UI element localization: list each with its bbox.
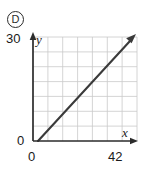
answer-choice-figure: D xyxy=(0,0,144,180)
y-axis-max-tick-label: 30 xyxy=(6,32,20,45)
line-arrowhead xyxy=(126,34,136,43)
y-axis-zero-tick-label: 0 xyxy=(17,134,24,147)
coordinate-plot: 30 0 0 42 y x xyxy=(0,0,144,180)
x-axis-zero-tick-label: 0 xyxy=(28,150,35,163)
x-axis-name-label: x xyxy=(122,126,128,139)
y-axis-name-label: y xyxy=(36,33,42,46)
y-axis xyxy=(30,32,37,141)
x-axis-max-tick-label: 42 xyxy=(108,150,122,163)
